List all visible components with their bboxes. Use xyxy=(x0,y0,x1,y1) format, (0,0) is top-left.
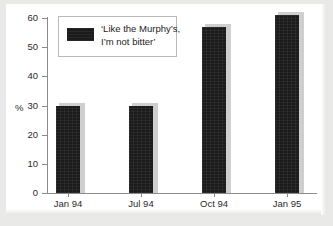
bar-body-jan-95 xyxy=(275,15,299,193)
legend-label: ‘Like the Murphy’s, I’m not bitter’ xyxy=(101,23,180,48)
y-tick-label-0: 0 xyxy=(14,188,38,198)
y-tick-mark-30 xyxy=(42,106,47,107)
legend-swatch-icon xyxy=(67,28,94,41)
x-tick-label-oct-94: Oct 94 xyxy=(190,199,238,209)
bar-chart: % 0 10 20 30 40 50 60 xyxy=(0,0,333,226)
y-axis-line xyxy=(47,17,48,194)
chart-screenshot: % 0 10 20 30 40 50 60 xyxy=(0,0,333,226)
x-tick-label-jul-94: Jul 94 xyxy=(117,199,165,209)
y-tick-mark-10 xyxy=(42,164,47,165)
x-tick-label-jan-95: Jan 95 xyxy=(263,199,311,209)
y-tick-mark-40 xyxy=(42,76,47,77)
x-tick-mark-jul-94 xyxy=(141,193,142,197)
bar-body-oct-94 xyxy=(202,27,226,193)
chart-legend: ‘Like the Murphy’s, I’m not bitter’ xyxy=(58,16,177,57)
y-tick-label-10: 10 xyxy=(14,159,38,169)
x-axis-line xyxy=(47,193,317,194)
x-tick-mark-jan-95 xyxy=(287,193,288,197)
y-tick-label-50: 50 xyxy=(14,42,38,52)
y-tick-label-30: 30 xyxy=(14,101,38,111)
bar-body-jan-94 xyxy=(56,106,80,193)
x-tick-mark-jan-94 xyxy=(68,193,69,197)
y-tick-mark-0 xyxy=(42,193,47,194)
y-tick-label-60: 60 xyxy=(14,13,38,23)
y-tick-label-40: 40 xyxy=(14,71,38,81)
legend-label-line-2: I’m not bitter’ xyxy=(101,36,180,49)
y-tick-mark-60 xyxy=(42,18,47,19)
y-tick-mark-50 xyxy=(42,47,47,48)
bar-body-jul-94 xyxy=(129,106,153,193)
x-tick-mark-oct-94 xyxy=(214,193,215,197)
legend-label-line-1: ‘Like the Murphy’s, xyxy=(101,23,180,36)
y-tick-mark-20 xyxy=(42,135,47,136)
y-tick-label-20: 20 xyxy=(14,130,38,140)
x-tick-label-jan-94: Jan 94 xyxy=(44,199,92,209)
